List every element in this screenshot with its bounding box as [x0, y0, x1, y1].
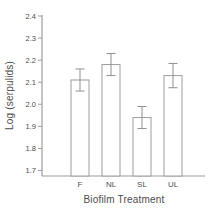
bar-F: [71, 80, 89, 176]
plot-area: 1.71.81.92.02.12.22.32.4FNLSLUL: [0, 0, 219, 214]
y-tick-label: 2.4: [26, 12, 36, 21]
bar-NL: [102, 65, 120, 176]
x-category-label-F: F: [78, 180, 83, 189]
x-axis-title: Biofilm Treatment: [42, 194, 206, 205]
y-tick-label: 2.1: [26, 78, 36, 87]
bar-UL: [164, 76, 182, 176]
y-tick-label: 2.0: [26, 100, 36, 109]
y-tick-label: 2.3: [26, 34, 36, 43]
y-tick-label: 1.7: [26, 166, 36, 175]
x-category-label-NL: NL: [106, 180, 117, 189]
bar-chart-figure: 1.71.81.92.02.12.22.32.4FNLSLUL Log (ser…: [0, 0, 219, 214]
x-category-label-UL: UL: [168, 180, 179, 189]
y-tick-label: 1.9: [26, 122, 36, 131]
y-axis-title: Log (serpulids): [4, 21, 15, 171]
y-tick-label: 1.8: [26, 144, 36, 153]
x-category-label-SL: SL: [137, 180, 147, 189]
y-tick-label: 2.2: [26, 56, 36, 65]
